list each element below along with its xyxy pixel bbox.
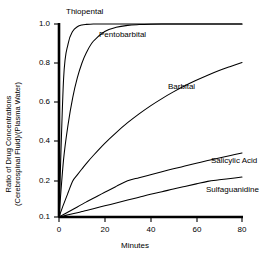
y-tick-label-0-4: 0.4 — [28, 137, 50, 145]
x-tick-label-0: 0 — [49, 226, 69, 234]
series-label-barbital: Barbital — [168, 83, 195, 91]
y-axis-title: Ratio of Drug Concentrations (Cerebrospi… — [4, 82, 22, 206]
series-label-thiopental: Thiopental — [66, 8, 103, 16]
x-tick-label-40: 40 — [141, 226, 161, 234]
series-label-salicylic-acid: Salicylic Acid — [211, 157, 257, 165]
x-axis-title: Minutes — [121, 242, 149, 250]
y-tick-label-1-0: 1.0 — [28, 20, 50, 28]
y-tick-label-0-1: 0.1 — [28, 213, 50, 221]
series-line-sulfaguanidine — [59, 177, 242, 217]
y-axis-title-line1: Ratio of Drug Concentrations — [4, 82, 13, 206]
x-tick-label-80: 80 — [232, 226, 252, 234]
y-tick-label-0-2: 0.2 — [28, 177, 50, 185]
y-tick-label-0-8: 0.8 — [28, 59, 50, 67]
x-tick-label-60: 60 — [187, 226, 207, 234]
x-tick-label-20: 20 — [95, 226, 115, 234]
chart-figure: 1.0 0.8 0.6 0.4 0.2 0.1 0 20 40 60 80 Mi… — [0, 0, 273, 259]
series-label-pentobarbital: Pentobarbital — [99, 31, 146, 39]
y-tick-label-0-6: 0.6 — [28, 98, 50, 106]
series-label-sulfaguanidine: Sulfaguanidine — [206, 186, 259, 194]
y-axis-title-line2: (Cerebrospinal Fluid)/(Plasma Water) — [13, 82, 22, 206]
